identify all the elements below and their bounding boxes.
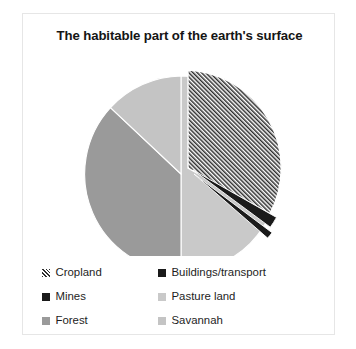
pie-chart-svg <box>23 44 336 256</box>
legend-item-buildings-transport[interactable]: Buildings/transport <box>158 261 318 285</box>
legend-item-mines[interactable]: Mines <box>42 285 152 309</box>
legend-item-forest[interactable]: Forest <box>42 309 152 333</box>
legend-label-savannah: Savannah <box>172 315 223 326</box>
chart-title: The habitable part of the earth's surfac… <box>23 28 336 43</box>
chart-card: The habitable part of the earth's surfac… <box>22 13 335 335</box>
legend-swatch-mines-icon <box>42 293 50 301</box>
legend-item-savannah[interactable]: Savannah <box>158 309 318 333</box>
pie-chart-plot-area <box>23 44 336 256</box>
legend-swatch-cropland-icon <box>42 269 50 277</box>
legend-label-forest: Forest <box>56 315 88 326</box>
legend-swatch-forest-icon <box>42 317 50 325</box>
legend-swatch-buildings-transport-icon <box>158 269 166 277</box>
chart-legend: Cropland Buildings/transport Mines Pastu… <box>23 261 336 333</box>
legend-label-buildings-transport: Buildings/transport <box>172 267 266 278</box>
legend-label-pasture-land: Pasture land <box>172 291 236 302</box>
legend-item-pasture-land[interactable]: Pasture land <box>158 285 318 309</box>
legend-swatch-pasture-land-icon <box>158 293 166 301</box>
legend-label-mines: Mines <box>56 291 86 302</box>
legend-swatch-savannah-icon <box>158 317 166 325</box>
legend-item-cropland[interactable]: Cropland <box>42 261 152 285</box>
legend-label-cropland: Cropland <box>56 267 102 278</box>
